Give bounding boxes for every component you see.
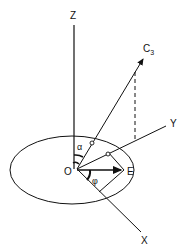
- marker-circle-c3: [90, 141, 94, 145]
- marker-circle-y: [106, 152, 110, 156]
- point-e-label: E: [127, 166, 134, 177]
- angle-alpha-arc: [74, 155, 83, 157]
- phi-label: φ: [92, 176, 98, 186]
- origin-label: O: [64, 166, 72, 177]
- x-axis: [77, 169, 141, 232]
- angle-phi-arc: [87, 170, 90, 180]
- e-to-y-line: [108, 152, 124, 170]
- alpha-label: α: [77, 142, 82, 152]
- z-axis-label: Z: [70, 10, 76, 21]
- y-axis-label: Y: [170, 118, 177, 129]
- x-axis-label: X: [141, 235, 148, 246]
- c3-label: C3: [143, 43, 154, 56]
- e-perpendicular-line: [99, 170, 124, 192]
- vector-c3: [77, 59, 143, 169]
- diagram-canvas: Z Y X O E C3 α φ: [0, 0, 185, 252]
